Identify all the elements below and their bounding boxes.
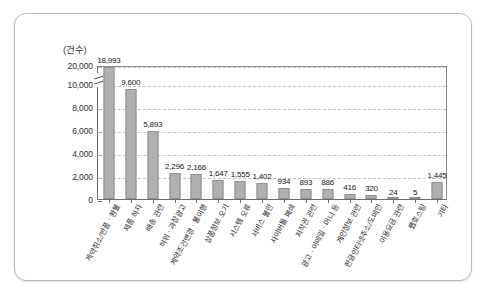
y-axis-tick-label: 10,000	[68, 80, 93, 90]
bar-value-label: 9,600	[121, 78, 140, 87]
y-axis-tick-label: 20,000	[68, 61, 93, 71]
y-axis-tick-label: 0	[88, 195, 93, 205]
y-axis-tick-label: 4,000	[72, 149, 93, 159]
y-axis-tick-label: 6,000	[72, 126, 93, 136]
y-axis-tick-label: 2,000	[72, 172, 93, 182]
bar-value-label: 5,893	[143, 120, 162, 129]
y-axis-unit-caption: (건수)	[63, 42, 87, 56]
bar-slot: 18,993	[98, 67, 120, 199]
y-axis-tick-labels: 02,0004,0006,0008,00010,00020,000	[41, 66, 93, 200]
figure-frame: (건수) 02,0004,0006,0008,00010,00020,000 1…	[14, 13, 472, 281]
y-axis-tick-label: 8,000	[72, 103, 93, 113]
x-axis-category-labels: 계약취소/반품ㆍ환불제품 하자배송 관련허위ㆍ과장광고계약조건변경ㆍ불이행상품정…	[97, 202, 447, 288]
bar[interactable]	[103, 67, 114, 199]
bar-value-label: 2,296	[165, 162, 184, 171]
bar-value-label: 18,993	[97, 56, 120, 65]
